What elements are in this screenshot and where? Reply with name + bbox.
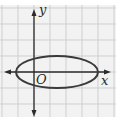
x-axis-label: x <box>101 74 108 87</box>
coordinate-plane <box>0 0 120 120</box>
y-axis-label: y <box>39 3 46 16</box>
origin-label: O <box>36 73 47 86</box>
